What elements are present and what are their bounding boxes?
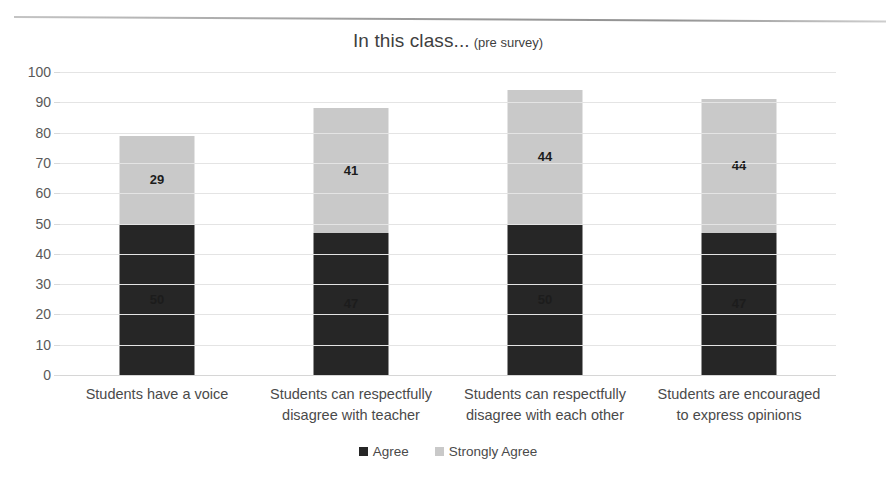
y-axis-tick-label: 80 [35, 125, 51, 141]
gridline-10 [60, 345, 836, 346]
category-label: Students are encouragedto express opinio… [642, 384, 836, 426]
category-label-line: disagree with each other [450, 405, 640, 426]
category-label-line: Students can respectfully [256, 384, 446, 405]
gridline-0 [60, 375, 836, 376]
plot-area: 5029474150444744 1009080706050403020100 [60, 72, 836, 375]
y-tick-mark-80 [54, 133, 60, 134]
y-axis-tick-label: 0 [43, 367, 51, 383]
chart-title-main: In this class... [353, 30, 470, 51]
category-label-line: disagree with teacher [256, 405, 446, 426]
gridline-20 [60, 314, 836, 315]
y-axis-tick-label: 60 [35, 185, 51, 201]
y-axis-tick-label: 50 [35, 216, 51, 232]
bar-value-label: 44 [538, 150, 552, 163]
gridline-70 [60, 163, 836, 164]
bar-value-label: 44 [732, 159, 746, 172]
bar-value-label: 50 [538, 293, 552, 306]
y-tick-mark-0 [54, 375, 60, 376]
bar-segment-strongly-agree[interactable]: 44 [702, 99, 777, 232]
bar-value-label: 41 [344, 164, 358, 177]
legend-item-agree[interactable]: Agree [359, 444, 409, 459]
gridline-100 [60, 72, 836, 73]
bar-stack[interactable]: 4744 [702, 99, 777, 375]
category-label-line: to express opinions [644, 405, 834, 426]
chart-title-suffix: (pre survey) [474, 35, 543, 50]
y-axis-tick-label: 90 [35, 94, 51, 110]
y-tick-mark-10 [54, 345, 60, 346]
bar-value-label: 29 [150, 173, 164, 186]
bar-value-label: 50 [150, 293, 164, 306]
category-label: Students have a voice [60, 384, 254, 426]
gridline-40 [60, 254, 836, 255]
y-axis-tick-label: 20 [35, 306, 51, 322]
chart-title: In this class...(pre survey) [0, 30, 896, 52]
gridline-30 [60, 284, 836, 285]
legend-swatch-icon [359, 447, 368, 456]
bar-stack[interactable]: 4741 [314, 108, 389, 375]
bar-stack[interactable]: 5029 [120, 136, 195, 375]
legend-swatch-icon [435, 447, 444, 456]
gridline-50 [60, 224, 836, 225]
category-label-line: Students have a voice [62, 384, 252, 405]
y-axis-tick-label: 30 [35, 276, 51, 292]
bar-segment-strongly-agree[interactable]: 41 [314, 108, 389, 232]
chart-legend: AgreeStrongly Agree [0, 444, 896, 459]
gridline-80 [60, 133, 836, 134]
y-tick-mark-60 [54, 193, 60, 194]
y-tick-mark-50 [54, 224, 60, 225]
category-label-line: Students are encouraged [644, 384, 834, 405]
y-axis-tick-label: 10 [35, 337, 51, 353]
category-label-line: Students can respectfully [450, 384, 640, 405]
bar-value-label: 47 [344, 297, 358, 310]
gridline-60 [60, 193, 836, 194]
category-axis-labels: Students have a voiceStudents can respec… [60, 384, 836, 426]
y-tick-mark-40 [54, 254, 60, 255]
y-tick-mark-90 [54, 102, 60, 103]
y-axis-tick-label: 100 [28, 64, 51, 80]
y-tick-mark-100 [54, 72, 60, 73]
bar-segment-agree[interactable]: 50 [120, 224, 195, 376]
bar-segment-strongly-agree[interactable]: 29 [120, 136, 195, 224]
bar-segment-strongly-agree[interactable]: 44 [508, 90, 583, 223]
y-tick-mark-30 [54, 284, 60, 285]
legend-label: Strongly Agree [449, 444, 538, 459]
stacked-bar-chart: In this class...(pre survey) 50294741504… [0, 0, 896, 489]
legend-label: Agree [373, 444, 409, 459]
bar-value-label: 47 [732, 297, 746, 310]
y-tick-mark-70 [54, 163, 60, 164]
category-label: Students can respectfullydisagree with e… [448, 384, 642, 426]
y-axis-tick-label: 40 [35, 246, 51, 262]
category-label: Students can respectfullydisagree with t… [254, 384, 448, 426]
legend-item-strongly-agree[interactable]: Strongly Agree [435, 444, 538, 459]
gridline-90 [60, 102, 836, 103]
y-axis-tick-label: 70 [35, 155, 51, 171]
y-tick-mark-20 [54, 314, 60, 315]
bar-segment-agree[interactable]: 50 [508, 224, 583, 376]
